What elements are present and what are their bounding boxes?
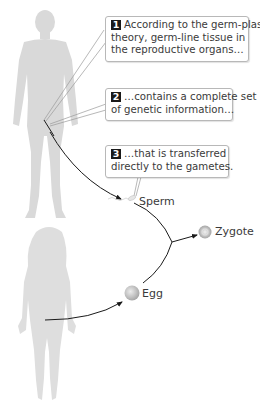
step-number-badge: 1 xyxy=(111,20,121,30)
egg-icon xyxy=(125,286,140,301)
callout-3-line-2: directly to the gametes. xyxy=(111,161,223,174)
callout-3: 3…that is transferred directly to the ga… xyxy=(105,145,229,178)
arrow-junction-to-zygote xyxy=(172,235,197,242)
callout-2-line-1: 2…contains a complete set xyxy=(111,91,227,104)
callout-1: 1According to the germ-plasm theory, ger… xyxy=(105,16,249,62)
male-silhouette xyxy=(13,10,78,218)
callout-1-line-2: theory, germ-line tissue in xyxy=(111,32,243,45)
sperm-icon xyxy=(108,194,136,201)
callout-1-line-1: 1According to the germ-plasm xyxy=(111,19,243,32)
callout-3-leader xyxy=(134,177,141,196)
germ-plasm-diagram: 1According to the germ-plasm theory, ger… xyxy=(0,0,260,406)
callout-3-line-1: 3…that is transferred xyxy=(111,148,223,161)
arrow-sperm-to-junction xyxy=(134,203,172,242)
zygote-icon xyxy=(199,226,212,239)
zygote-label: Zygote xyxy=(215,225,254,238)
step-number-badge: 3 xyxy=(111,149,121,159)
female-silhouette xyxy=(18,227,76,400)
callout-1-line-3: the reproductive organs… xyxy=(111,44,243,57)
callout-2: 2…contains a complete set of genetic inf… xyxy=(105,88,233,121)
callout-2-line-2: of genetic information… xyxy=(111,104,227,117)
sperm-label: Sperm xyxy=(139,195,175,208)
egg-label: Egg xyxy=(142,287,163,300)
step-number-badge: 2 xyxy=(111,92,121,102)
arrow-egg-to-junction xyxy=(143,242,172,283)
